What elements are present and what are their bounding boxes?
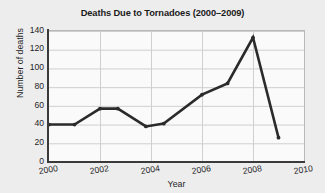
- x-axis-spine: [47, 161, 305, 163]
- x-tick-label: 2000: [38, 163, 58, 176]
- x-tick-label: 2010: [293, 163, 313, 176]
- y-axis-title: Number of deaths: [15, 7, 25, 119]
- y-axis-spine: [47, 29, 49, 163]
- x-axis-title: Year: [49, 179, 304, 189]
- chart-canvas: [49, 31, 304, 162]
- x-tick-label: 2008: [242, 163, 262, 176]
- x-tick-label: 2004: [140, 163, 160, 176]
- tornado-deaths-line-chart: Deaths Due to Tornadoes (2000–2009) 0204…: [0, 0, 325, 193]
- plot-area: [49, 30, 305, 162]
- x-tick-label: 2006: [191, 163, 211, 176]
- x-tick-label: 2002: [89, 163, 109, 176]
